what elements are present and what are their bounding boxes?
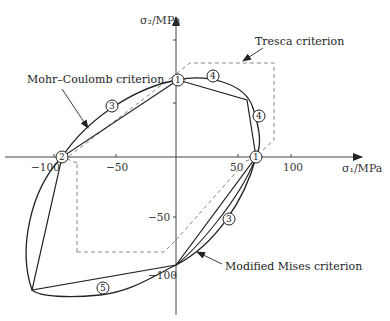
y-axis-label: σ₂/MPa — [140, 14, 181, 27]
failure-criteria-diagram: −100 −50 50 100 −50 −100 σ₁/MPa σ₂/MPa 1 — [0, 0, 390, 321]
mohr-coulomb-callout-arrow — [62, 89, 88, 128]
tresca-callout-arrow — [243, 48, 263, 61]
tresca-callout-label: Tresca criterion — [255, 35, 344, 48]
svg-text:5: 5 — [100, 283, 106, 293]
mohr-coulomb-criterion — [32, 80, 256, 290]
modified-mises-callout-label: Modified Mises criterion — [225, 260, 362, 273]
svg-text:3: 3 — [226, 214, 232, 224]
x-tick-label: −100 — [31, 161, 60, 173]
x-axis-label: σ₁/MPa — [342, 162, 383, 175]
svg-text:4: 4 — [210, 71, 216, 81]
mohr-coulomb-callout-label: Mohr–Coulomb criterion — [27, 73, 164, 86]
marker-3-lower-right: 3 — [223, 213, 235, 225]
svg-text:3: 3 — [109, 101, 115, 111]
marker-4-right: 4 — [253, 110, 265, 122]
diagram-canvas: −100 −50 50 100 −50 −100 σ₁/MPa σ₂/MPa 1 — [0, 0, 390, 321]
svg-text:4: 4 — [256, 111, 262, 121]
marker-1-top: 1 — [172, 74, 184, 86]
marker-1-right: 1 — [250, 151, 262, 163]
x-tick-label: −50 — [106, 161, 128, 173]
x-tick-label: 100 — [283, 161, 303, 173]
modified-mises-callout-arrow — [197, 252, 222, 264]
marker-2: 2 — [56, 151, 68, 163]
marker-5: 5 — [97, 282, 109, 294]
marker-3-upper-left: 3 — [106, 100, 118, 112]
svg-text:2: 2 — [59, 152, 65, 162]
y-tick-label: −100 — [148, 269, 177, 281]
y-tick-label: −50 — [148, 211, 170, 223]
svg-text:1: 1 — [175, 75, 181, 85]
marker-4-top: 4 — [207, 70, 219, 82]
svg-text:1: 1 — [253, 152, 259, 162]
